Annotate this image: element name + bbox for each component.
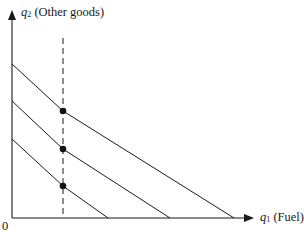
kink-point-dot [60, 183, 67, 190]
origin-label: 0 [2, 220, 8, 232]
axes [12, 18, 246, 218]
kink-point-dot [60, 146, 67, 153]
x-axis-label: q1 (Fuel) [260, 211, 304, 224]
y-axis-subscript: 2 [27, 10, 31, 19]
x-axis-subscript: 1 [266, 215, 270, 224]
x-axis-text: (Fuel) [273, 210, 304, 224]
budget-line-outer [12, 64, 234, 218]
y-axis-label: q2 (Other goods) [21, 6, 104, 19]
x-axis-arrow-icon [244, 214, 254, 222]
budget-line-middle [12, 101, 170, 218]
y-axis-arrow-icon [8, 10, 16, 20]
y-axis-text: (Other goods) [34, 5, 104, 19]
budget-lines [12, 64, 234, 218]
budget-line-inner [12, 139, 108, 218]
kink-point-dot [60, 108, 67, 115]
budget-diagram [0, 0, 304, 232]
